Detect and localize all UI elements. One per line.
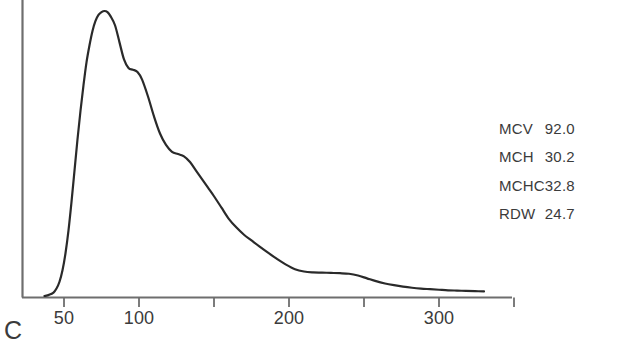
- stat-value: 32.8: [545, 171, 575, 200]
- stat-label: MCH: [499, 143, 545, 172]
- x-axis-tick-label: 100: [99, 308, 179, 329]
- stat-label: RDW: [499, 200, 545, 229]
- stat-label: MCHC: [499, 171, 545, 200]
- x-axis-tick-label: 50: [24, 308, 104, 329]
- stats-row: MCH30.2: [499, 143, 575, 172]
- stats-table-body: MCV92.0MCH30.2MCHC32.8RDW24.7: [499, 114, 575, 228]
- x-axis-tick-label: 300: [399, 308, 479, 329]
- axes: [22, 0, 514, 307]
- red-cell-indices-table: MCV92.0MCH30.2MCHC32.8RDW24.7: [499, 114, 575, 228]
- stat-label: MCV: [499, 114, 545, 143]
- stats-row: MCV92.0: [499, 114, 575, 143]
- x-axis-ticks: [64, 298, 514, 308]
- stat-value: 24.7: [545, 200, 575, 229]
- stat-value: 92.0: [545, 114, 575, 143]
- x-axis-tick-label: 200: [249, 308, 329, 329]
- stats-row: RDW24.7: [499, 200, 575, 229]
- stat-value: 30.2: [545, 143, 575, 172]
- distribution-curve: [45, 11, 485, 296]
- panel-letter-label: C: [4, 318, 22, 343]
- histogram-figure: 50100200300 C MCV92.0MCH30.2MCHC32.8RDW2…: [0, 0, 622, 356]
- stats-row: MCHC32.8: [499, 171, 575, 200]
